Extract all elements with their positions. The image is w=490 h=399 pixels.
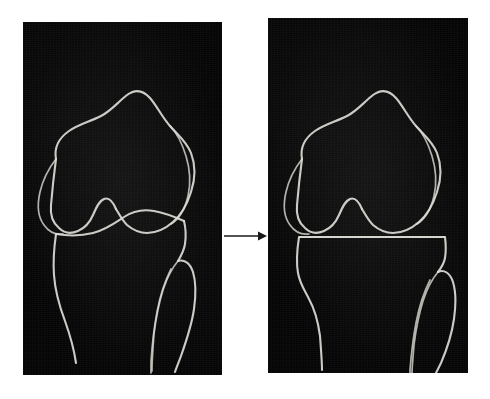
left-fibula-lateral-border (175, 260, 195, 372)
left-bone-outline-svg (23, 22, 222, 375)
arrow-label: transforms into (222, 250, 223, 251)
figure-title: Knee joint before and after tibial resec… (0, 0, 1, 1)
right-tibia-medial-cortex (297, 237, 322, 370)
left-posterior-condyle-lateral (170, 126, 190, 224)
panel-left-caption: Native knee with intact tibial plateau (0, 0, 1, 1)
right-femur-outline (302, 91, 441, 233)
arrow-right-icon (222, 222, 270, 250)
left-tibia-lateral-cortex (178, 221, 186, 261)
right-posterior-condyle-lateral (416, 126, 436, 224)
transition-arrow: transforms into (222, 222, 270, 250)
left-tibia-medial-cortex (54, 234, 76, 363)
right-tibia-lateral-cortex (438, 237, 446, 272)
right-bone-outline-svg (268, 18, 468, 373)
left-tibia-lateral-shaft (151, 269, 171, 373)
figure-root: Knee joint before and after tibial resec… (0, 0, 490, 399)
right-intercondylar-notch (297, 159, 362, 233)
panel-right-caption: Knee after flat proximal tibial cut (0, 0, 1, 1)
right-posterior-condyle-medial (284, 159, 309, 234)
left-intercondylar-notch (51, 159, 116, 233)
panel-left-preoperative (23, 22, 222, 375)
right-fibula-lateral-border (436, 271, 455, 373)
left-femur-outline (56, 91, 195, 233)
panel-right-postresection (268, 18, 468, 373)
left-posterior-condyle-medial (38, 159, 63, 234)
